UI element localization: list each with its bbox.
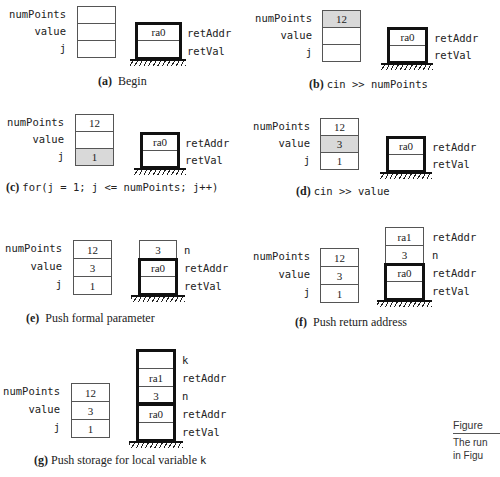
global-label-value: value [250, 27, 312, 44]
stack-cell-retaddr-ra0: ra0 [385, 263, 424, 282]
global-label-value: value [0, 401, 60, 418]
stack-cell-retval [137, 422, 175, 441]
global-label-value: value [250, 266, 310, 283]
global-label-value: value [0, 258, 62, 275]
global-label-j: j [0, 276, 62, 293]
global-label-j: j [250, 44, 312, 61]
stack-base-ground [129, 441, 183, 448]
stack-label-n: n [432, 247, 438, 264]
stack-cell-n: 3 [139, 240, 177, 259]
global-cell-numpoints: 12 [71, 383, 110, 402]
stack-base-ground [134, 168, 186, 175]
global-cell-numpoints [77, 6, 116, 24]
stack-label-retaddr: retAddr [185, 135, 229, 152]
global-cell-value: 3 [320, 135, 359, 153]
stack-cell-retaddr: ra0 [139, 258, 177, 277]
stack-base-ground [130, 59, 186, 66]
global-cell-numpoints: 12 [75, 114, 114, 132]
stack-cell-retaddr: ra0 [136, 23, 181, 41]
stack-base-ground [377, 300, 432, 307]
stack-cell-retaddr: ra0 [388, 28, 427, 46]
figure-caption-line-1: The run [453, 437, 487, 448]
figure-title: Figure [453, 419, 483, 431]
global-cell-j: 1 [320, 152, 359, 170]
caption-e: (e) Push formal parameter [26, 311, 155, 326]
global-cell-j: 1 [320, 284, 359, 303]
figure-title-rule [453, 433, 500, 434]
global-cell-j [77, 40, 116, 58]
stack-cell-n: 3 [137, 386, 175, 405]
stack-base-ground [381, 63, 433, 70]
stack-cell-n: 3 [385, 245, 424, 264]
stack-cell-retaddr-ra0: ra0 [137, 404, 175, 423]
global-cell-value: 3 [320, 266, 359, 285]
caption-a: (a) Begin [98, 74, 147, 89]
caption-b: (b) cin >> numPoints [309, 77, 428, 92]
global-label-j: j [250, 152, 310, 169]
stack-label-retaddr: retAddr [434, 30, 478, 47]
global-cell-j: 1 [75, 148, 114, 166]
global-label-numpoints: numPoints [250, 248, 310, 265]
stack-cell-retaddr-ra1: ra1 [137, 368, 175, 387]
global-cell-j: 1 [71, 419, 110, 438]
global-label-value: value [0, 23, 66, 40]
global-cell-numpoints: 12 [73, 240, 112, 259]
stack-cell-retval [385, 281, 424, 300]
stack-label-retaddr: retAddr [187, 25, 231, 42]
global-label-numpoints: numPoints [0, 114, 64, 131]
stack-label-retaddr-ra0: retAddr [182, 406, 226, 423]
global-label-numpoints: numPoints [0, 383, 60, 400]
global-cell-numpoints: 12 [320, 248, 359, 267]
stack-label-retval: retVal [434, 47, 472, 64]
global-cell-numpoints: 12 [320, 118, 359, 136]
global-cell-value [77, 23, 116, 41]
caption-g: (g) Push storage for local variable k [34, 453, 206, 468]
caption-c: (c) for(j = 1; j <= numPoints; j++) [6, 180, 218, 195]
stack-label-retval: retVal [432, 283, 470, 300]
stack-cell-retval [141, 150, 179, 168]
stack-cell-retaddr: ra0 [387, 137, 425, 155]
global-label-numpoints: numPoints [250, 118, 310, 135]
stack-label-n: n [184, 242, 190, 259]
global-cell-value: 3 [71, 401, 110, 420]
stack-label-retval: retVal [184, 278, 222, 295]
global-label-numpoints: numPoints [250, 10, 312, 27]
figure-caption-line-2: in Figu [453, 450, 483, 461]
global-cell-value: 3 [73, 258, 112, 277]
stack-label-retaddr-ra1: retAddr [182, 370, 226, 387]
stack-cell-retval [136, 40, 181, 58]
global-label-numpoints: numPoints [0, 240, 62, 257]
caption-d: (d) cin >> value [296, 184, 390, 199]
stack-label-k: k [182, 352, 188, 369]
stack-cell-retaddr: ra0 [141, 133, 179, 151]
stack-label-retval: retVal [432, 156, 470, 173]
stack-label-retaddr: retAddr [184, 260, 228, 277]
global-label-j: j [0, 148, 64, 165]
stack-label-retval: retVal [187, 43, 225, 60]
stack-cell-retval [139, 276, 177, 295]
stack-cell-retval [388, 45, 427, 63]
stack-cell-retaddr-ra1: ra1 [385, 227, 424, 246]
stack-base-ground [131, 295, 185, 302]
stack-label-retaddr: retAddr [432, 139, 476, 156]
global-label-value: value [0, 131, 64, 148]
global-cell-numpoints: 12 [322, 10, 361, 28]
global-label-j: j [250, 284, 310, 301]
stack-label-retval: retVal [185, 152, 223, 169]
global-label-value: value [250, 135, 310, 152]
stack-label-n: n [182, 388, 188, 405]
stack-cell-k [137, 350, 175, 369]
global-cell-j: 1 [73, 276, 112, 295]
stack-label-retaddr-ra0: retAddr [432, 265, 476, 282]
global-label-numpoints: numPoints [0, 6, 66, 23]
global-label-j: j [0, 40, 66, 57]
stack-cell-retval [387, 154, 425, 172]
global-label-j: j [0, 419, 60, 436]
stack-label-retaddr-ra1: retAddr [432, 229, 476, 246]
global-cell-value [322, 27, 361, 45]
global-cell-value [75, 131, 114, 149]
stack-label-retval: retVal [182, 424, 220, 441]
stack-base-ground [380, 172, 432, 179]
caption-f: (f) Push return address [295, 315, 407, 330]
global-cell-j [322, 44, 361, 62]
